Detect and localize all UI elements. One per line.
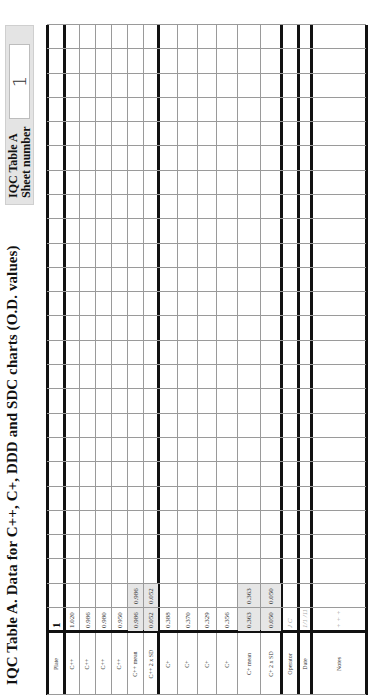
cell-cp-0[interactable] (159, 268, 177, 291)
cell-cp_mean[interactable] (238, 559, 260, 583)
cell-cp-2[interactable] (198, 292, 216, 315)
cell-cpp_2sd[interactable] (144, 49, 158, 73)
cell-cp-2[interactable] (198, 219, 216, 243)
cell-cpp-3[interactable] (112, 414, 127, 437)
cell-cp-2[interactable] (198, 316, 216, 340)
cell-cp_mean[interactable]: 0.363 (238, 584, 260, 607)
cell-cpp-2[interactable]: 0.980 (96, 608, 111, 631)
cell-cp-2[interactable] (198, 438, 216, 461)
cell-plate[interactable] (48, 122, 64, 145)
cell-cp-3[interactable] (217, 244, 237, 267)
cell-cp-1[interactable] (178, 414, 197, 437)
cell-cpp-0[interactable] (65, 414, 79, 437)
cell-date[interactable] (299, 49, 311, 73)
cell-cp-0[interactable]: 0.388 (159, 608, 177, 631)
cell-cpp-0[interactable] (65, 487, 79, 510)
cell-operator[interactable] (282, 414, 298, 437)
cell-cp-0[interactable] (159, 49, 177, 73)
cell-cp-2[interactable] (198, 487, 216, 510)
cell-cp-2[interactable] (198, 389, 216, 413)
cell-date[interactable] (299, 195, 311, 218)
cell-cp-0[interactable] (159, 559, 177, 583)
cell-notes[interactable] (312, 559, 366, 583)
cell-cpp-0[interactable] (65, 219, 79, 243)
cell-cpp_mean[interactable] (128, 462, 143, 486)
cell-date[interactable] (299, 365, 311, 388)
cell-cp_2sd[interactable] (261, 511, 281, 534)
cell-cpp_2sd[interactable] (144, 341, 158, 364)
cell-cp_2sd[interactable] (261, 74, 281, 97)
cell-cpp-1[interactable] (80, 316, 95, 340)
cell-cpp-3[interactable] (112, 511, 127, 534)
cell-cp_2sd[interactable] (261, 219, 281, 243)
cell-cpp-0[interactable]: 1.020 (65, 608, 79, 631)
cell-cpp-3[interactable] (112, 535, 127, 558)
cell-cp-3[interactable] (217, 195, 237, 218)
cell-cpp-1[interactable]: 0.986 (80, 608, 95, 631)
cell-cp_2sd[interactable] (261, 487, 281, 510)
cell-cpp-1[interactable] (80, 462, 95, 486)
cell-cp_2sd[interactable] (261, 438, 281, 461)
cell-notes[interactable]: + + + (312, 608, 366, 631)
cell-cp-2[interactable] (198, 414, 216, 437)
cell-cp-3[interactable] (217, 365, 237, 388)
cell-cpp_2sd[interactable] (144, 316, 158, 340)
cell-cpp-2[interactable] (96, 316, 111, 340)
cell-cpp-1[interactable] (80, 74, 95, 97)
cell-cp-3[interactable] (217, 292, 237, 315)
cell-operator[interactable] (282, 462, 298, 486)
cell-cpp-0[interactable] (65, 146, 79, 170)
cell-operator[interactable] (282, 268, 298, 291)
cell-cpp-2[interactable] (96, 122, 111, 145)
cell-cpp_mean[interactable] (128, 535, 143, 558)
cell-cp-2[interactable] (198, 49, 216, 73)
cell-cpp_2sd[interactable] (144, 511, 158, 534)
cell-cpp-2[interactable] (96, 219, 111, 243)
cell-cpp-1[interactable] (80, 535, 95, 558)
cell-cpp_mean[interactable] (128, 146, 143, 170)
cell-cp_mean[interactable] (238, 195, 260, 218)
cell-cpp-0[interactable] (65, 268, 79, 291)
cell-date[interactable] (299, 146, 311, 170)
cell-cp-1[interactable] (178, 244, 197, 267)
cell-cpp_2sd[interactable] (144, 244, 158, 267)
cell-cp-2[interactable] (198, 171, 216, 194)
cell-cp-3[interactable]: 0.356 (217, 608, 237, 631)
cell-cp-3[interactable] (217, 487, 237, 510)
cell-cp-2[interactable] (198, 244, 216, 267)
cell-cp-3[interactable] (217, 559, 237, 583)
cell-cpp-2[interactable] (96, 389, 111, 413)
cell-notes[interactable] (312, 341, 366, 364)
cell-cp_mean[interactable] (238, 414, 260, 437)
cell-plate[interactable] (48, 316, 64, 340)
cell-cp-1[interactable] (178, 171, 197, 194)
cell-cpp-2[interactable] (96, 268, 111, 291)
cell-cp_mean[interactable] (238, 49, 260, 73)
cell-cp-1[interactable] (178, 195, 197, 218)
cell-cp-2[interactable] (198, 98, 216, 121)
cell-notes[interactable] (312, 122, 366, 145)
cell-cpp-2[interactable] (96, 341, 111, 364)
cell-date[interactable] (299, 414, 311, 437)
cell-cp-2[interactable] (198, 462, 216, 486)
cell-notes[interactable] (312, 268, 366, 291)
cell-cpp-3[interactable] (112, 292, 127, 315)
cell-cpp-1[interactable] (80, 49, 95, 73)
cell-cpp_2sd[interactable] (144, 462, 158, 486)
cell-operator[interactable]: J C (282, 608, 298, 631)
cell-cpp-1[interactable] (80, 244, 95, 267)
cell-cp_2sd[interactable] (261, 122, 281, 145)
cell-plate[interactable] (48, 535, 64, 558)
cell-plate[interactable] (48, 414, 64, 437)
cell-cp-0[interactable] (159, 219, 177, 243)
cell-cp_2sd[interactable] (261, 49, 281, 73)
cell-cpp-3[interactable]: 0.950 (112, 608, 127, 631)
cell-operator[interactable] (282, 98, 298, 121)
cell-cp-3[interactable] (217, 219, 237, 243)
cell-cp-0[interactable] (159, 365, 177, 388)
cell-operator[interactable] (282, 146, 298, 170)
cell-operator[interactable] (282, 171, 298, 194)
cell-notes[interactable] (312, 171, 366, 194)
cell-cp-0[interactable] (159, 341, 177, 364)
cell-cp_mean[interactable] (238, 122, 260, 145)
